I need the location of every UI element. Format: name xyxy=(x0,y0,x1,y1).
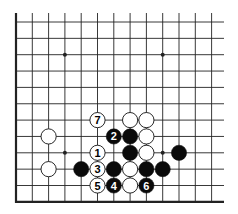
star-point xyxy=(161,53,165,57)
move-number: 5 xyxy=(94,180,100,192)
star-point xyxy=(63,151,67,155)
white-stone xyxy=(139,129,154,144)
white-stone xyxy=(41,162,56,177)
star-point xyxy=(63,53,67,57)
black-stone xyxy=(123,129,138,144)
black-stone xyxy=(139,162,154,177)
white-stone xyxy=(123,113,138,128)
white-stone xyxy=(123,162,138,177)
move-number: 4 xyxy=(111,180,118,192)
white-stone-5: 5 xyxy=(90,178,105,193)
black-stone-2: 2 xyxy=(106,129,121,144)
white-stone xyxy=(123,178,138,193)
white-stone xyxy=(139,145,154,160)
move-number: 7 xyxy=(94,114,100,126)
white-stone-7: 7 xyxy=(90,113,105,128)
black-stone-4: 4 xyxy=(106,178,121,193)
black-stone xyxy=(106,162,121,177)
black-stone xyxy=(171,145,186,160)
go-board: 7213546 xyxy=(0,0,238,214)
move-number: 2 xyxy=(111,130,117,142)
white-stone-3: 3 xyxy=(90,162,105,177)
black-stone xyxy=(74,162,89,177)
black-stone xyxy=(155,162,170,177)
move-number: 3 xyxy=(94,163,100,175)
white-stone xyxy=(41,129,56,144)
black-stone xyxy=(123,145,138,160)
star-point xyxy=(161,151,165,155)
move-number: 1 xyxy=(94,147,100,159)
white-stone-1: 1 xyxy=(90,145,105,160)
move-number: 6 xyxy=(143,180,149,192)
white-stone xyxy=(139,113,154,128)
black-stone-6: 6 xyxy=(139,178,154,193)
